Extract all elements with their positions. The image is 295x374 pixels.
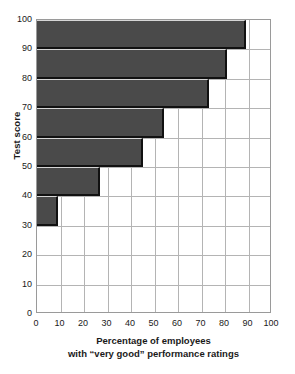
x-tick-label: 90 xyxy=(235,319,261,328)
x-tick-label: 80 xyxy=(211,319,237,328)
x-tick-label: 60 xyxy=(164,319,190,328)
bar xyxy=(37,49,227,78)
x-axis-title-line-2: with “very good” performance ratings xyxy=(36,347,271,360)
y-tick-label: 10 xyxy=(2,280,32,289)
x-tick-label: 30 xyxy=(94,319,120,328)
x-axis-tick-labels: 0102030405060708090100 xyxy=(36,319,276,333)
y-tick-label: 50 xyxy=(2,162,32,171)
x-axis-title-line-1: Percentage of employees xyxy=(36,334,271,347)
bar xyxy=(37,167,100,196)
y-tick-label: 100 xyxy=(2,15,32,24)
x-tick-label: 70 xyxy=(188,319,214,328)
y-tick-label: 20 xyxy=(2,250,32,259)
y-tick-label: 60 xyxy=(2,133,32,142)
y-tick-label: 70 xyxy=(2,103,32,112)
bar xyxy=(37,79,209,108)
horizontal-gridline xyxy=(37,255,270,256)
horizontal-gridline xyxy=(37,285,270,286)
bar xyxy=(37,196,58,225)
x-tick-label: 0 xyxy=(23,319,49,328)
bar xyxy=(37,138,143,167)
x-tick-label: 100 xyxy=(258,319,284,328)
bar-chart: Test score 0102030405060708090100 010203… xyxy=(0,0,295,374)
y-axis-tick-labels: 0102030405060708090100 xyxy=(0,0,32,374)
plot-area xyxy=(36,19,271,313)
y-tick-label: 40 xyxy=(2,191,32,200)
horizontal-gridline xyxy=(37,226,270,227)
bar xyxy=(37,108,164,137)
x-axis-title: Percentage of employeeswith “very good” … xyxy=(36,334,271,360)
x-tick-label: 40 xyxy=(117,319,143,328)
bar xyxy=(37,20,246,49)
x-tick-label: 50 xyxy=(141,319,167,328)
y-tick-label: 80 xyxy=(2,74,32,83)
y-tick-label: 0 xyxy=(2,309,32,318)
y-tick-label: 30 xyxy=(2,221,32,230)
vertical-gridline xyxy=(249,20,250,312)
x-tick-label: 20 xyxy=(70,319,96,328)
y-tick-label: 90 xyxy=(2,44,32,53)
x-tick-label: 10 xyxy=(47,319,73,328)
